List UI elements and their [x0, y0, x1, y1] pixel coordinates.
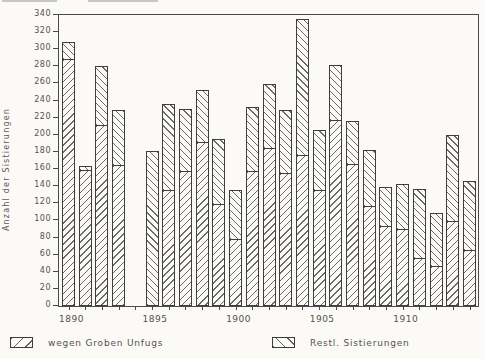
y-tick — [53, 31, 58, 32]
bar-segment-restl-sistierungen — [62, 42, 75, 60]
x-tick-label: 1900 — [226, 314, 251, 324]
bar-segment-wegen-groben-unfugs — [162, 190, 175, 306]
y-tick — [53, 271, 58, 272]
bar-segment-restl-sistierungen — [79, 166, 92, 171]
bar-segment-restl-sistierungen — [379, 187, 392, 227]
x-tick — [286, 306, 287, 310]
bar-segment-wegen-groben-unfugs — [279, 173, 292, 306]
y-tick — [53, 48, 58, 49]
bar-segment-restl-sistierungen — [346, 121, 359, 165]
bar-segment-wegen-groben-unfugs — [430, 266, 443, 306]
bar-segment-restl-sistierungen — [313, 130, 326, 191]
y-tick-label: 160 — [5, 163, 51, 173]
x-tick — [470, 306, 471, 310]
x-tick — [369, 306, 370, 310]
y-tick-label: 120 — [5, 197, 51, 207]
bar-segment-restl-sistierungen — [229, 190, 242, 240]
y-tick — [53, 305, 58, 306]
bar-segment-restl-sistierungen — [196, 90, 209, 143]
bar-segment-restl-sistierungen — [146, 151, 159, 306]
bar-segment-wegen-groben-unfugs — [263, 148, 276, 306]
x-tick — [252, 306, 253, 310]
bar-segment-wegen-groben-unfugs — [196, 142, 209, 306]
legend-swatch-wegen-groben-unfugs — [10, 337, 33, 348]
y-tick — [53, 254, 58, 255]
x-tick-label: 1910 — [393, 314, 418, 324]
x-tick — [135, 306, 136, 310]
bar-segment-wegen-groben-unfugs — [112, 165, 125, 306]
bar-segment-restl-sistierungen — [212, 139, 225, 205]
scan-artifact — [2, 0, 57, 2]
x-tick — [386, 306, 387, 310]
x-tick — [185, 306, 186, 310]
bar-segment-wegen-groben-unfugs — [179, 171, 192, 306]
legend-label-wegen-groben-unfugs: wegen Groben Unfugs — [48, 338, 163, 348]
bar-segment-restl-sistierungen — [162, 104, 175, 191]
x-tick — [269, 306, 270, 310]
bar-segment-wegen-groben-unfugs — [296, 155, 309, 306]
bar-segment-restl-sistierungen — [179, 109, 192, 172]
bar-segment-restl-sistierungen — [430, 213, 443, 267]
y-tick-label: 340 — [5, 9, 51, 19]
bar-segment-restl-sistierungen — [329, 65, 342, 121]
y-tick — [53, 288, 58, 289]
y-tick — [53, 168, 58, 169]
bar-segment-wegen-groben-unfugs — [363, 206, 376, 306]
x-tick — [152, 306, 153, 310]
y-tick — [53, 134, 58, 135]
bar-segment-restl-sistierungen — [396, 184, 409, 230]
x-tick — [85, 306, 86, 310]
y-tick — [53, 82, 58, 83]
x-tick-label: 1890 — [59, 314, 84, 324]
bar-segment-wegen-groben-unfugs — [463, 250, 476, 306]
bar-segment-wegen-groben-unfugs — [313, 190, 326, 306]
bar-segment-restl-sistierungen — [413, 189, 426, 259]
bar-segment-restl-sistierungen — [446, 135, 459, 222]
y-tick — [53, 237, 58, 238]
y-tick — [53, 202, 58, 203]
bar-segment-restl-sistierungen — [463, 181, 476, 251]
bar-chart-figure: Anzahl der Sistierungen 0204060801001201… — [0, 0, 485, 359]
y-tick — [53, 185, 58, 186]
bar-segment-wegen-groben-unfugs — [379, 226, 392, 306]
x-tick — [302, 306, 303, 310]
y-tick-label: 140 — [5, 180, 51, 190]
bar-segment-restl-sistierungen — [279, 110, 292, 174]
y-tick-label: 200 — [5, 129, 51, 139]
x-tick — [419, 306, 420, 310]
bar-segment-wegen-groben-unfugs — [229, 239, 242, 306]
y-tick-label: 280 — [5, 60, 51, 70]
x-tick — [436, 306, 437, 310]
bar-segment-restl-sistierungen — [363, 150, 376, 207]
y-tick-label: 240 — [5, 95, 51, 105]
bar-segment-wegen-groben-unfugs — [396, 229, 409, 306]
y-tick-label: 80 — [5, 232, 51, 242]
x-tick — [403, 306, 404, 310]
bar-segment-restl-sistierungen — [246, 107, 259, 172]
y-tick — [53, 14, 58, 15]
legend-label-restl-sistierungen: Restl. Sistierungen — [310, 338, 410, 348]
x-tick — [102, 306, 103, 310]
y-tick-label: 220 — [5, 112, 51, 122]
x-tick — [453, 306, 454, 310]
bar-segment-wegen-groben-unfugs — [346, 164, 359, 306]
x-tick — [119, 306, 120, 310]
bar-segment-wegen-groben-unfugs — [62, 59, 75, 306]
y-tick-label: 320 — [5, 26, 51, 36]
legend-swatch-restl-sistierungen — [272, 337, 295, 348]
x-tick — [336, 306, 337, 310]
y-tick — [53, 117, 58, 118]
bar-segment-wegen-groben-unfugs — [95, 125, 108, 306]
y-tick-label: 180 — [5, 146, 51, 156]
y-tick-label: 260 — [5, 77, 51, 87]
bar-segment-wegen-groben-unfugs — [246, 171, 259, 306]
y-tick — [53, 219, 58, 220]
y-tick — [53, 65, 58, 66]
y-tick-label: 300 — [5, 43, 51, 53]
x-tick-label: 1895 — [143, 314, 168, 324]
bar-segment-wegen-groben-unfugs — [446, 221, 459, 306]
bar-segment-restl-sistierungen — [263, 84, 276, 149]
bar-segment-wegen-groben-unfugs — [413, 258, 426, 306]
x-tick — [319, 306, 320, 310]
x-tick — [236, 306, 237, 310]
